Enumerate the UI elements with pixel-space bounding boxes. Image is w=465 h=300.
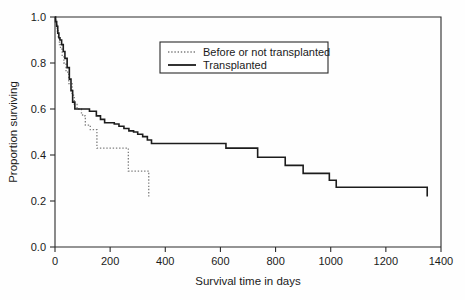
y-tick-label: 1.0 xyxy=(31,11,46,23)
x-tick-label: 600 xyxy=(211,255,229,267)
x-tick-label: 200 xyxy=(101,255,119,267)
x-tick-label: 1200 xyxy=(374,255,398,267)
x-tick-label: 400 xyxy=(156,255,174,267)
y-axis-title: Proportion surviving xyxy=(7,81,19,183)
y-tick-label: 0.0 xyxy=(31,241,46,253)
x-tick-label: 0 xyxy=(52,255,58,267)
survival-chart-figure: 0.00.20.40.60.81.0 020040060080010001200… xyxy=(0,0,465,300)
y-axis-ticks: 0.00.20.40.60.81.0 xyxy=(31,11,55,253)
y-tick-label: 0.8 xyxy=(31,57,46,69)
y-tick-label: 0.2 xyxy=(31,195,46,207)
legend-label-before-or-not-transplanted: Before or not transplanted xyxy=(203,46,330,58)
y-tick-label: 0.4 xyxy=(31,149,46,161)
x-tick-label: 1000 xyxy=(318,255,342,267)
x-axis-ticks: 0200400600800100012001400 xyxy=(52,247,453,267)
x-axis-title: Survival time in days xyxy=(195,275,301,287)
legend-label-transplanted: Transplanted xyxy=(203,59,267,71)
chart-canvas: 0.00.20.40.60.81.0 020040060080010001200… xyxy=(0,0,465,300)
x-tick-label: 1400 xyxy=(429,255,453,267)
legend: Before or not transplanted Transplanted xyxy=(160,42,330,73)
y-tick-label: 0.6 xyxy=(31,103,46,115)
x-tick-label: 800 xyxy=(266,255,284,267)
series-before-or-not-transplanted xyxy=(55,17,149,196)
